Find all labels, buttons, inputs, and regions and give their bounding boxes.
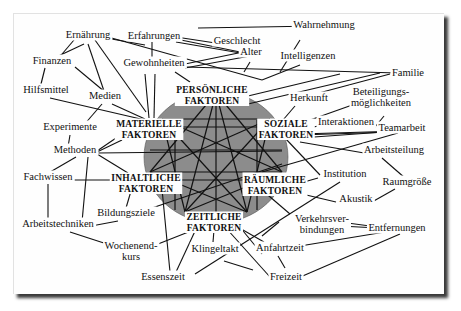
connection-line <box>82 157 88 222</box>
concept-label-text: Methoden <box>54 144 97 155</box>
concept-label-ernaehrung: Ernährung <box>64 29 112 41</box>
concept-label-text: Alter <box>240 46 262 57</box>
concept-label-beteiligung: Beteiligungs-möglichkeiten <box>349 86 413 109</box>
concept-label-familie: Familie <box>390 67 425 79</box>
concept-label-essenszeit: Essenszeit <box>140 271 187 283</box>
connection-line <box>262 65 300 80</box>
concept-label-text: Ernährung <box>66 29 111 40</box>
diagram-stage: ErnährungErfahrungenGeschlechtAlterWahrn… <box>0 0 461 311</box>
concept-label-erfahrungen: Erfahrungen <box>126 30 182 42</box>
connection-line <box>283 106 295 120</box>
concept-label-text: Institution <box>323 168 367 179</box>
concept-label-wahrnehmung: Wahrnehmung <box>292 19 357 31</box>
factor-label-text: SOZIALEFAKTOREN <box>259 119 314 140</box>
concept-label-text: Gewohnheiten <box>123 57 185 68</box>
concept-label-text: Raumgröße <box>383 176 432 187</box>
concept-label-klingeltakt: Klingeltakt <box>190 243 240 255</box>
concept-label-geschlecht: Geschlecht <box>212 35 262 47</box>
concept-label-entfernungen: Entfernungen <box>367 222 428 234</box>
concept-label-herkunft: Herkunft <box>289 92 330 104</box>
concept-label-alter: Alter <box>239 46 264 58</box>
concept-label-freizeit: Freizeit <box>268 271 303 283</box>
concept-label-fachwissen: Fachwissen <box>22 171 75 183</box>
concept-label-teamarbeit: Teamarbeit <box>377 122 427 134</box>
factor-label-text: RÄUMLICHEFAKTOREN <box>244 173 306 196</box>
concept-label-text: Herkunft <box>290 92 328 103</box>
concept-label-text: Experimente <box>43 121 97 132</box>
factor-label-pers: PERSÖNLICHEFAKTOREN <box>175 83 249 107</box>
concept-label-text: Medien <box>89 90 122 101</box>
concept-label-gewohnheiten: Gewohnheiten <box>122 57 187 69</box>
connection-line <box>97 154 128 173</box>
concept-label-text: Hilfsmittel <box>23 84 69 95</box>
concept-label-text: Beteiligungs-möglichkeiten <box>351 86 412 108</box>
concept-label-text: Erfahrungen <box>128 30 181 41</box>
concept-label-methoden: Methoden <box>52 144 98 156</box>
connection-line <box>244 62 250 72</box>
concept-label-text: Bildungsziele <box>97 207 155 218</box>
connection-line <box>382 158 405 178</box>
factor-label-mat: MATERIELLEFAKTOREN <box>115 119 184 141</box>
concept-label-text: Freizeit <box>270 271 302 282</box>
connection-line <box>262 222 279 236</box>
concept-label-institution: Institution <box>322 168 369 180</box>
concept-label-text: Essenszeit <box>141 271 185 282</box>
concept-label-text: Wahrnehmung <box>293 19 355 30</box>
factor-label-zeit: ZEITLICHEFAKTOREN <box>185 212 243 234</box>
factor-label-raeum: RÄUMLICHEFAKTOREN <box>243 173 308 197</box>
factor-label-inh: INHALTLICHEFAKTOREN <box>110 173 182 195</box>
factor-network-diagram: ErnährungErfahrungenGeschlechtAlterWahrn… <box>0 0 461 311</box>
factor-label-text: INHALTLICHEFAKTOREN <box>111 173 180 194</box>
connection-line <box>224 261 253 270</box>
connection-line <box>97 140 122 152</box>
concept-label-bildungsziele: Bildungsziele <box>96 207 157 219</box>
concept-label-raumgroesse: Raumgröße <box>381 176 433 188</box>
concept-label-text: Fachwissen <box>24 171 74 182</box>
factor-label-text: ZEITLICHEFAKTOREN <box>186 212 241 233</box>
concept-label-text: Klingeltakt <box>191 243 238 254</box>
concept-label-text: Finanzen <box>33 55 72 66</box>
concept-label-wochenend: Wochenend-kurs <box>103 240 159 263</box>
concept-label-text: Akustik <box>339 193 373 204</box>
concept-label-akustik: Akustik <box>338 193 375 205</box>
factor-label-text: MATERIELLEFAKTOREN <box>116 119 182 140</box>
concept-label-text: Interaktionen <box>318 116 375 127</box>
connection-line <box>175 72 190 82</box>
concept-label-text: Anfahrtzeit <box>256 242 304 253</box>
concept-label-anfahrtzeit: Anfahrtzeit <box>255 242 306 254</box>
factor-label-soz: SOZIALEFAKTOREN <box>257 119 315 141</box>
connection-line <box>154 74 155 118</box>
concept-label-text: Verkehrsver-bindungen <box>295 213 350 235</box>
factor-label-text: PERSÖNLICHEFAKTOREN <box>176 83 247 106</box>
concept-label-medien: Medien <box>87 90 123 102</box>
concept-label-intelligenzen: Intelligenzen <box>279 50 338 62</box>
concept-label-arbeitsteilung: Arbeitsteilung <box>362 144 426 156</box>
concept-label-hilfsmittel: Hilfsmittel <box>22 84 71 96</box>
concept-label-arbeitstechniken: Arbeitstechniken <box>21 218 96 230</box>
concept-label-text: Geschlecht <box>214 35 261 46</box>
concept-label-text: Intelligenzen <box>281 50 337 61</box>
concept-label-text: Arbeitstechniken <box>22 218 94 229</box>
concept-label-text: Arbeitsteilung <box>364 144 425 155</box>
concept-label-interaktionen: Interaktionen <box>317 116 377 128</box>
connection-line <box>112 104 145 119</box>
concept-label-verkehr: Verkehrsver-bindungen <box>293 213 351 236</box>
connection-line <box>298 234 400 278</box>
connection-line <box>372 189 395 202</box>
concept-label-experimente: Experimente <box>42 121 99 133</box>
concept-label-text: Teamarbeit <box>378 122 425 133</box>
concept-label-finanzen: Finanzen <box>31 55 73 67</box>
concept-label-text: Entfernungen <box>368 222 426 233</box>
concept-label-text: Familie <box>392 67 424 78</box>
connection-line <box>278 256 285 268</box>
